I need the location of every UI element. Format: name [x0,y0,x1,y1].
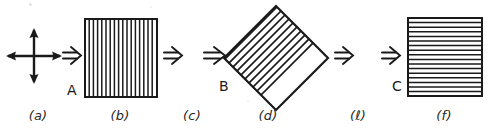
vertex-label-a: A [67,82,77,98]
panel-d-diamond-diagonal-stripes [222,4,332,114]
horizontal-stripe-square-icon [407,17,483,97]
caption-e: (ℓ) [338,108,378,123]
cross-arrows-icon [0,0,70,105]
diagonal-stripe-diamond-icon [222,4,332,114]
double-arrow-right-icon-4 [334,44,356,68]
panel-b-square-vertical-stripes [84,18,158,98]
scan-speckle [150,6,152,8]
double-arrow-right-icon-2 [163,44,185,68]
caption-f: (f) [424,108,464,123]
panel-a-cross [0,0,70,105]
vertical-stripe-square-icon [84,18,158,98]
vertex-label-c: C [392,78,402,94]
double-arrow-right-icon-1 [62,44,84,68]
caption-c: (c) [172,108,212,123]
caption-a: (a) [18,108,58,123]
vertex-label-b: B [219,78,229,94]
double-arrow-right-icon-5 [381,44,403,68]
figure-canvas: (a) [0,0,504,133]
caption-d: (d) [248,108,288,123]
panel-f-square-horizontal-stripes [407,17,483,97]
caption-b: (b) [100,108,140,123]
